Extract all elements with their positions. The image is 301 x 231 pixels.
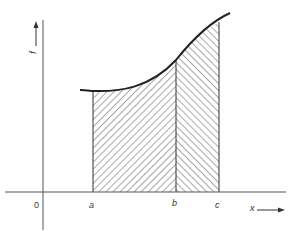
point-a-label: a bbox=[89, 201, 94, 210]
hatched-region-a-to-b bbox=[93, 60, 176, 192]
area-under-curve-diagram bbox=[0, 0, 301, 231]
origin-label: 0 bbox=[34, 201, 39, 210]
y-axis-label: f bbox=[29, 51, 38, 54]
hatched-region-b-to-c bbox=[176, 22, 219, 192]
y-arrow-icon bbox=[34, 21, 39, 46]
x-axis-label: x bbox=[250, 204, 255, 213]
x-arrow-icon bbox=[257, 208, 285, 213]
point-b-label: b bbox=[172, 199, 177, 208]
point-c-label: c bbox=[215, 201, 220, 210]
